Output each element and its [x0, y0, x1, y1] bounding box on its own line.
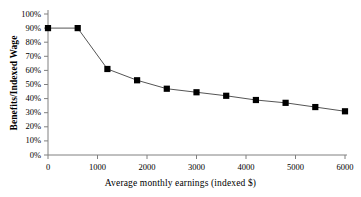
data-point-marker — [164, 86, 170, 92]
data-point-marker — [75, 25, 81, 31]
x-axis-tick-label: 0 — [23, 162, 73, 172]
data-point-marker — [45, 25, 51, 31]
y-axis-tick-label: 40% — [0, 93, 41, 103]
data-point-marker — [104, 66, 110, 72]
data-point-marker — [193, 89, 199, 95]
data-point-marker — [223, 93, 229, 99]
data-point-marker — [312, 104, 318, 110]
y-axis-tick-label: 30% — [0, 107, 41, 117]
chart-container: Benefits/Indexed Wage Average monthly ea… — [0, 0, 361, 197]
data-point-marker — [134, 77, 140, 83]
x-axis-title: Average monthly earnings (indexed $) — [0, 178, 361, 188]
x-axis-tick-label: 2000 — [122, 162, 172, 172]
series-line — [48, 28, 345, 111]
data-point-marker — [283, 100, 289, 106]
x-axis-tick-label: 5000 — [271, 162, 321, 172]
y-axis-tick-label: 70% — [0, 51, 41, 61]
y-axis-tick-label: 100% — [0, 9, 41, 19]
data-point-marker — [342, 108, 348, 114]
x-axis-tick-label: 1000 — [73, 162, 123, 172]
y-axis-tick-label: 50% — [0, 79, 41, 89]
y-axis-tick-label: 20% — [0, 121, 41, 131]
y-axis-tick-label: 0% — [0, 150, 41, 160]
y-axis-tick-label: 60% — [0, 65, 41, 75]
x-axis-tick-label: 6000 — [320, 162, 361, 172]
y-axis-tick-label: 80% — [0, 37, 41, 47]
y-axis-tick-label: 90% — [0, 23, 41, 33]
x-axis-tick-label: 3000 — [172, 162, 222, 172]
x-axis-tick-label: 4000 — [221, 162, 271, 172]
y-axis-tick-label: 10% — [0, 135, 41, 145]
data-point-marker — [253, 97, 259, 103]
